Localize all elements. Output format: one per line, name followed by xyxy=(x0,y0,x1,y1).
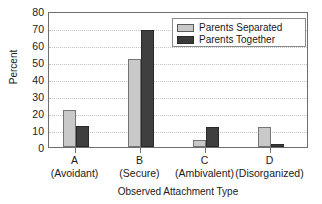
category-letter: D xyxy=(230,154,310,167)
bar xyxy=(206,127,219,147)
y-axis-tick-label: 10 xyxy=(0,126,44,137)
legend-swatch-icon-dark xyxy=(177,36,194,44)
y-axis-tick-label: 70 xyxy=(0,24,44,35)
bar-chart-figure: Percent 01020304050607080 A(Avoidant)B(S… xyxy=(0,0,322,204)
y-axis-tick-label: 80 xyxy=(0,7,44,18)
bar xyxy=(271,144,284,147)
category-sublabel: (Disorganized) xyxy=(230,167,310,180)
x-axis-tick xyxy=(75,148,76,153)
x-axis-tick xyxy=(140,148,141,153)
y-axis-tick-label: 50 xyxy=(0,58,44,69)
legend-label: Parents Separated xyxy=(199,23,282,33)
y-axis-tick-label: 20 xyxy=(0,109,44,120)
legend-label: Parents Together xyxy=(199,35,275,45)
legend-item-parents-together: Parents Together xyxy=(177,34,301,45)
x-axis-ticks xyxy=(48,148,308,153)
chart-legend: Parents Separated Parents Together xyxy=(172,18,306,47)
bar xyxy=(76,126,89,147)
y-axis-tick-label: 30 xyxy=(0,92,44,103)
x-axis-category-labels: A(Avoidant)B(Secure)C(Ambivalent)D(Disor… xyxy=(48,154,308,186)
legend-item-parents-separated: Parents Separated xyxy=(177,22,301,33)
bar xyxy=(258,127,271,147)
bar xyxy=(193,140,206,147)
y-axis-tick-label: 40 xyxy=(0,75,44,86)
bar xyxy=(128,59,141,147)
bar xyxy=(63,110,76,147)
legend-swatch-icon-light xyxy=(177,24,194,32)
y-axis-tick-label: 0 xyxy=(0,143,44,154)
x-axis-tick xyxy=(205,148,206,153)
bar xyxy=(141,30,154,147)
y-axis-tick-labels: 01020304050607080 xyxy=(0,12,44,148)
x-axis-title: Observed Attachment Type xyxy=(48,186,308,197)
x-axis-category-label: D(Disorganized) xyxy=(230,154,310,180)
y-axis-tick-label: 60 xyxy=(0,41,44,52)
x-axis-tick xyxy=(270,148,271,153)
